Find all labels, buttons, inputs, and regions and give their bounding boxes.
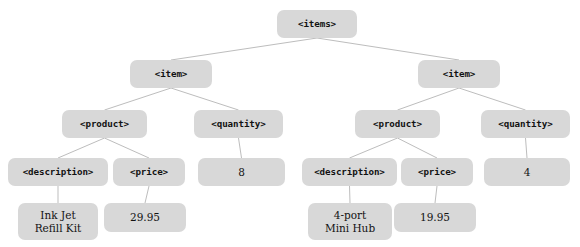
tree-node-label: 4 [522,166,533,178]
tree-node-label: <item> [441,69,478,80]
tree-edge [145,186,149,203]
tree-node-items: <items> [277,10,357,38]
tree-node-price1: <price> [113,158,185,186]
tree-node-label: 19.95 [418,211,452,223]
tree-edge [350,138,398,158]
tree-node-priceval2: 19.95 [394,203,476,232]
tree-edge [105,88,172,110]
tree-node-label: <items> [296,19,338,30]
tree-edge [171,38,317,60]
tree-node-label: <product> [78,119,131,130]
tree-node-label: <description> [312,167,387,178]
tree-edge [239,138,242,158]
tree-edge [459,88,526,110]
tree-node-product1: <product> [62,110,147,138]
tree-node-label: <quantity> [209,119,267,130]
tree-node-item1: <item> [130,60,212,88]
tree-node-price2: <price> [401,158,473,186]
tree-node-label: 8 [236,166,247,178]
tree-node-label: <description> [21,167,96,178]
tree-node-descval2: 4-port Mini Hub [308,203,392,240]
tree-node-label: <quantity> [496,119,554,130]
tree-node-priceval1: 29.95 [104,203,186,232]
tree-node-qtyval2: 4 [484,158,570,186]
tree-node-qtyval1: 8 [198,158,285,186]
tree-node-label: 4-port Mini Hub [323,209,377,234]
tree-edge [317,38,459,60]
xml-tree-diagram: <items><item><item><product><quantity><p… [0,0,580,247]
tree-node-product2: <product> [355,110,440,138]
tree-edge [350,186,351,203]
tree-node-description1: <description> [8,158,108,186]
tree-edge [435,186,437,203]
tree-node-item2: <item> [418,60,500,88]
tree-node-description2: <description> [302,158,397,186]
tree-edge [398,138,438,158]
tree-node-label: <price> [416,167,458,178]
tree-edge [105,138,150,158]
tree-node-label: 29.95 [128,211,162,223]
tree-node-label: <price> [128,167,170,178]
tree-node-label: <product> [371,119,424,130]
tree-node-descval1: Ink Jet Refill Kit [18,203,98,240]
tree-edge [58,138,105,158]
tree-node-quantity2: <quantity> [481,110,570,138]
tree-edge [171,88,239,110]
tree-node-quantity1: <quantity> [194,110,283,138]
tree-node-label: Ink Jet Refill Kit [33,209,84,234]
tree-edge [526,138,528,158]
tree-edge [398,88,460,110]
tree-node-label: <item> [153,69,190,80]
